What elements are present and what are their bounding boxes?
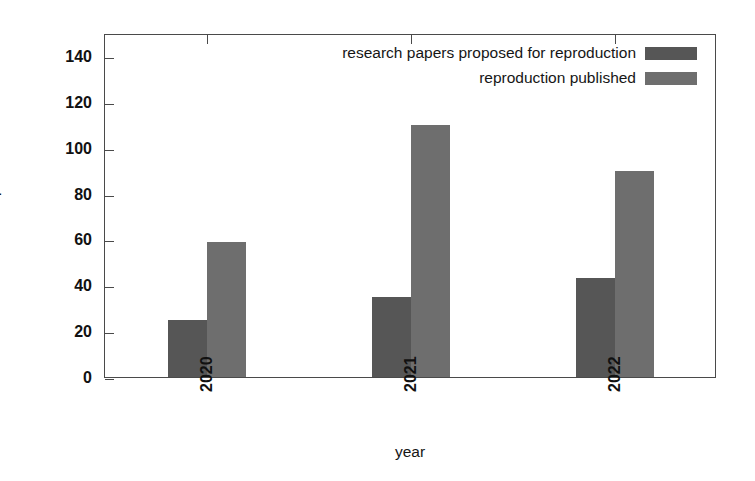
x-axis-tick-top: [411, 35, 412, 44]
y-axis-title: Number of repro/submissions: [0, 0, 2, 400]
x-axis-tick-top: [615, 35, 616, 44]
y-axis-tick: [105, 379, 114, 380]
x-axis-title: year: [395, 443, 425, 461]
y-axis-tick-label: 100: [32, 140, 92, 158]
x-axis-tick-top: [207, 35, 208, 44]
x-axis-tick-label: 2020: [198, 356, 216, 392]
bar-2021-series-1: [411, 125, 450, 377]
y-axis-tick: [105, 287, 114, 288]
y-axis-tick: [105, 196, 114, 197]
legend-swatch-0: [645, 47, 697, 60]
legend-label-0: research papers proposed for reproductio…: [342, 44, 636, 62]
chart-legend: research papers proposed for reproductio…: [342, 44, 697, 87]
y-axis-tick: [105, 104, 114, 105]
y-axis-tick-label: 140: [32, 48, 92, 66]
legend-entry-0: research papers proposed for reproductio…: [342, 44, 697, 62]
plot-area: research papers proposed for reproductio…: [104, 34, 716, 378]
x-axis-tick-label: 2021: [402, 356, 420, 392]
bar-2022-series-1: [615, 171, 654, 377]
legend-label-1: reproduction published: [479, 69, 636, 87]
bar-chart: Number of repro/submissions 020406080100…: [0, 0, 755, 481]
y-axis-tick: [105, 241, 114, 242]
y-axis-tick-label: 120: [32, 94, 92, 112]
y-axis-tick-label: 80: [32, 186, 92, 204]
y-axis-tick-label: 40: [32, 277, 92, 295]
y-axis-tick: [105, 150, 114, 151]
y-axis-tick-label: 60: [32, 231, 92, 249]
y-axis-tick: [105, 58, 114, 59]
y-axis-tick-label: 20: [32, 323, 92, 341]
x-axis-tick-label: 2022: [606, 356, 624, 392]
legend-swatch-1: [645, 72, 697, 85]
y-axis-tick-label: 0: [32, 369, 92, 387]
y-axis-tick: [105, 333, 114, 334]
legend-entry-1: reproduction published: [342, 69, 697, 87]
